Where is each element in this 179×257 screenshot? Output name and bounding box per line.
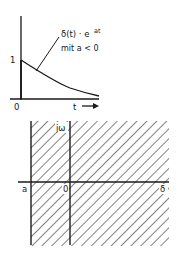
real-axis-label: δ: [160, 184, 165, 194]
function-exponent: at: [94, 27, 101, 35]
t-arrow-head-icon: [93, 103, 99, 109]
origin-label-top: 0: [14, 102, 19, 112]
decay-curve: [21, 60, 99, 96]
condition-label: mit a < 0: [61, 44, 98, 53]
imag-axis-label: jω: [55, 123, 65, 133]
a-label: a: [22, 184, 27, 194]
bottom-plot: jω a 0 δ: [18, 121, 169, 246]
y-tick-1: 1: [10, 55, 15, 65]
function-label: δ(t) · e: [61, 29, 90, 39]
top-plot: δ(t) · e at mit a < 0 1 0 t: [10, 16, 101, 112]
hatched-region: [31, 121, 169, 246]
diagram-canvas: δ(t) · e at mit a < 0 1 0 t jω a 0 δ: [0, 0, 179, 257]
t-axis-label: t: [73, 102, 77, 112]
origin-label-bottom: 0: [63, 184, 68, 194]
label-leader-line: [36, 37, 59, 71]
